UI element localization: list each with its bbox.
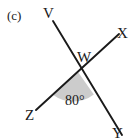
point-label-y: Y: [112, 126, 123, 138]
part-label: (c): [7, 9, 21, 22]
point-label-z: Z: [25, 108, 34, 123]
angle-measure-label: 80°: [65, 94, 85, 108]
line-v-y: [53, 21, 122, 135]
geometry-figure: (c) V X W Z Y 80°: [0, 0, 135, 138]
point-label-x: X: [117, 26, 128, 41]
point-label-w: W: [77, 50, 91, 65]
point-label-v: V: [43, 6, 54, 21]
